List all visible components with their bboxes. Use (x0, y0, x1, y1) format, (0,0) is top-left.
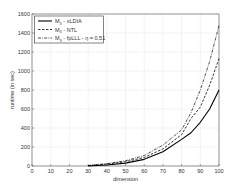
y-tick-label: 600 (21, 106, 30, 112)
x-tick-label: 100 (214, 168, 223, 174)
y-tick-label: 0 (27, 163, 30, 169)
y-axis-label: runtime (in sec) (9, 71, 15, 109)
y-tick-label: 1400 (18, 30, 30, 36)
y-tick-label: 1600 (18, 11, 30, 17)
x-tick-label: 80 (179, 168, 185, 174)
x-tick-label: 10 (48, 168, 54, 174)
x-tick-label: 60 (141, 168, 147, 174)
x-tick-label: 30 (85, 168, 91, 174)
x-axis: 0102030405060708090100 (30, 164, 223, 174)
x-axis-label: dimension (113, 176, 138, 182)
y-tick-label: 1200 (18, 49, 30, 55)
x-tick-label: 20 (66, 168, 72, 174)
runtime-chart: 0102030405060708090100 02004006008001000… (0, 0, 233, 188)
y-tick-label: 200 (21, 144, 30, 150)
x-tick-label: 70 (160, 168, 166, 174)
x-tick-label: 0 (30, 168, 33, 174)
series-lines (88, 25, 219, 166)
x-tick-label: 50 (122, 168, 128, 174)
y-tick-label: 800 (21, 87, 30, 93)
series-line-ntl (88, 59, 219, 166)
series-line-fplll (88, 25, 219, 165)
y-tick-label: 1000 (18, 68, 30, 74)
y-axis: 02004006008001000120014001600 (18, 11, 34, 169)
y-tick-label: 400 (21, 125, 30, 131)
x-tick-label: 90 (197, 168, 203, 174)
legend: M3 - xLDIA M3 - NTL M3 - fpLLL - η = 0.5… (35, 16, 106, 43)
x-tick-label: 40 (104, 168, 110, 174)
